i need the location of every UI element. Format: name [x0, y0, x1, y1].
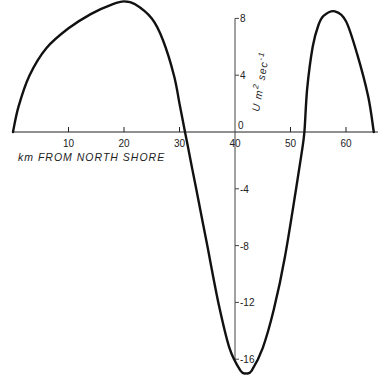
y-axis-title: U m2 sec-1	[247, 51, 271, 113]
y-tick-label: -4	[240, 184, 249, 195]
x-axis: 102030405060	[13, 127, 378, 149]
x-tick-label: 50	[285, 138, 297, 149]
y-tick-label: -8	[240, 241, 249, 252]
x-tick-label: 60	[340, 138, 352, 149]
y-tick-label: -12	[240, 297, 255, 308]
x-tick-label: 10	[63, 138, 75, 149]
y-axis-title-sec: sec	[254, 60, 270, 85]
x-axis-title: km FROM NORTH SHORE	[18, 151, 165, 163]
x-tick-label: 20	[118, 138, 130, 149]
y-axis-title-main: U m	[249, 88, 265, 112]
x-tick-label: 30	[174, 138, 186, 149]
y-axis: 840-4-8-12-16	[235, 13, 255, 365]
y-tick-label: 4	[240, 70, 246, 81]
y-tick-label: 8	[240, 13, 246, 24]
line-chart: 102030405060 840-4-8-12-16 km FROM NORTH…	[0, 0, 385, 382]
data-curve	[13, 1, 374, 373]
svg-text:U m2 sec-1: U m2 sec-1	[247, 51, 271, 113]
y-axis-title-sup2: -1	[256, 51, 266, 62]
y-tick-label: -16	[240, 354, 255, 365]
y-tick-label: 0	[238, 120, 244, 131]
